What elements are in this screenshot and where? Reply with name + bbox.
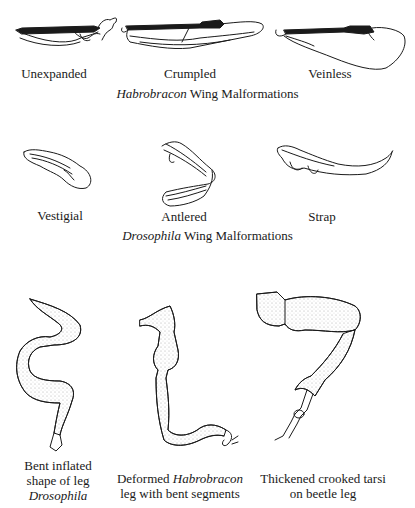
habrobracon-deformed-leg-drawing: [140, 290, 240, 450]
habrobracon-leg-caption: Deformed Habrobracon leg with bent segme…: [115, 471, 245, 501]
drosophila-bent-leg-drawing: [10, 295, 90, 455]
crumpled-label: Crumpled: [150, 66, 230, 81]
habrobracon-caption-text: Wing Malformations: [187, 86, 299, 101]
habrobracon-leg-caption-line2: leg with bent segments: [115, 486, 245, 501]
drosophila-caption-genus: Drosophila: [122, 228, 181, 243]
beetle-leg-caption-line2: on beetle leg: [258, 486, 388, 501]
unexpanded-label: Unexpanded: [14, 66, 94, 81]
beetle-leg-caption-line1: Thickened crooked tarsi: [258, 471, 388, 486]
beetle-leg-caption: Thickened crooked tarsi on beetle leg: [258, 471, 388, 501]
veinless-label: Veinless: [300, 66, 360, 81]
vestigial-label: Vestigial: [30, 208, 90, 223]
vestigial-wing-drawing: [20, 146, 100, 191]
drosophila-leg-caption-line2: shape of leg: [10, 473, 106, 488]
drosophila-caption: Drosophila Wing Malformations: [0, 228, 415, 244]
habrobracon-leg-caption-line1: Deformed Habrobracon: [115, 471, 245, 486]
beetle-thickened-leg-drawing: [255, 290, 390, 455]
drosophila-leg-caption: Bent inflated shape of leg Drosophila: [10, 458, 106, 503]
drosophila-caption-text: Wing Malformations: [181, 228, 293, 243]
habrobracon-caption-genus: Habrobracon: [116, 86, 186, 101]
drosophila-leg-caption-line1: Bent inflated: [10, 458, 106, 473]
habrobracon-leg-caption-genus: Habrobracon: [173, 471, 243, 486]
unexpanded-wing-drawing: [14, 12, 114, 52]
crumpled-wing-drawing: [120, 18, 270, 58]
drosophila-leg-caption-line3: Drosophila: [10, 488, 106, 503]
strap-label: Strap: [302, 209, 342, 224]
habrobracon-caption: Habrobracon Wing Malformations: [0, 86, 415, 102]
antlered-wing-drawing: [152, 140, 227, 208]
strap-wing-drawing: [274, 142, 399, 190]
habrobracon-leg-caption-pre: Deformed: [117, 471, 173, 486]
antlered-label: Antlered: [154, 209, 214, 224]
